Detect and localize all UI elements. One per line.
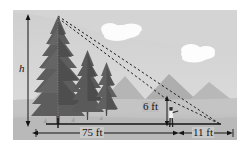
distance-75ft-arrow [32,129,179,137]
tree-height-figure: h 75 ft 11 ft 6 ft [0,0,249,155]
label-person-height-6ft: 6 ft [142,101,159,112]
label-tree-height: h [18,63,26,74]
tree-height-arrow [26,14,31,127]
lower-dashed-sight-line [58,18,165,98]
person-height-6ft-arrow [165,96,169,127]
label-distance-75ft: 75 ft [80,127,104,138]
sight-line-extension [165,98,220,124]
label-distance-11ft: 11 ft [192,127,214,138]
